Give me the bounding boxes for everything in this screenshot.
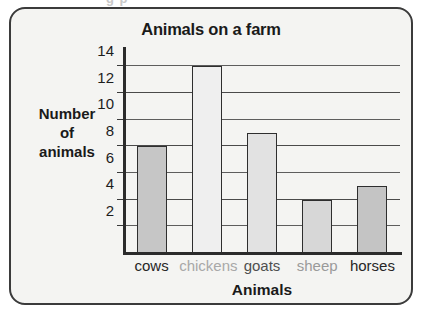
y-axis-title-line-2: animals (21, 142, 113, 161)
y-tick-label-10: 10 (97, 95, 114, 112)
x-axis-label-horses: horses (345, 257, 400, 274)
x-axis-line (123, 252, 402, 255)
bar-chickens (192, 66, 222, 253)
y-tick-label-12: 12 (97, 68, 114, 85)
y-tick-label-2: 2 (106, 201, 114, 218)
bar-chart-figure: Animals on a farm Numberofanimals 246810… (9, 7, 413, 305)
x-axis-category-labels: cowschickensgoatssheephorses (124, 257, 412, 277)
x-axis-title: Animals (124, 281, 400, 299)
y-axis-title-line-1: of (21, 123, 113, 142)
bar-sheep (302, 200, 332, 253)
x-axis-label-goats: goats (234, 257, 289, 274)
bars-group (124, 53, 400, 253)
y-tick-label-6: 6 (106, 148, 114, 165)
x-axis-label-sheep: sheep (290, 257, 345, 274)
cropped-text-above-figure: g p (106, 0, 129, 6)
y-tick-label-14: 14 (97, 41, 114, 58)
y-tick-label-8: 8 (106, 121, 114, 138)
x-axis-label-cows: cows (124, 257, 179, 274)
plot-area: 2468101214 (124, 53, 400, 253)
bar-horses (357, 186, 387, 253)
y-axis-title: Numberofanimals (21, 104, 113, 162)
y-axis-line (123, 47, 126, 254)
y-tick-label-4: 4 (106, 175, 114, 192)
bar-cows (137, 146, 167, 253)
x-axis-label-chickens: chickens (179, 257, 234, 274)
chart-title: Animals on a farm (11, 20, 411, 39)
bar-goats (247, 133, 277, 253)
